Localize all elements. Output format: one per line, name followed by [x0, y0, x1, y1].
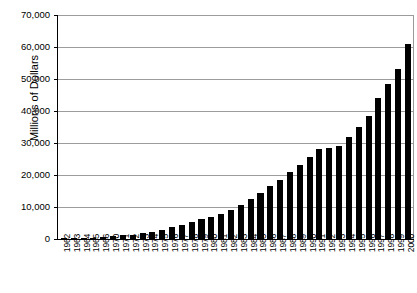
bar	[405, 44, 411, 239]
x-label-slot: 1989	[294, 241, 304, 293]
x-label-slot: 1997	[373, 241, 383, 293]
bar-chart-figure: Millions of Dollars 70,00060,00050,00040…	[0, 0, 417, 293]
bar-slot	[393, 15, 403, 239]
x-label-slot: 1999	[392, 241, 402, 293]
bar-slot	[98, 15, 108, 239]
x-label-slot: 1972	[127, 241, 137, 293]
bar	[297, 165, 303, 239]
x-label-slot: 1974	[146, 241, 156, 293]
x-label-slot: 1975	[156, 241, 166, 293]
bar-slot	[354, 15, 364, 239]
bar	[336, 146, 342, 239]
x-label-slot: 1996	[363, 241, 373, 293]
x-axis-tick-labels: 1962196319641965196619701971197219731974…	[57, 241, 413, 293]
bar	[316, 149, 322, 239]
bar-slot	[206, 15, 216, 239]
x-label-slot: 1980	[205, 241, 215, 293]
x-label-slot: 1991	[314, 241, 324, 293]
y-axis-tick-labels: 70,00060,00050,00040,00030,00020,00010,0…	[0, 0, 54, 243]
x-label-slot: 1965	[87, 241, 97, 293]
bar-slot	[324, 15, 334, 239]
x-label-slot: 1992	[323, 241, 333, 293]
y-tick-label: 50,000	[21, 74, 50, 84]
bar	[267, 186, 273, 239]
bar	[395, 69, 401, 239]
bar-slot	[285, 15, 295, 239]
bar	[346, 137, 352, 239]
bars-series	[58, 15, 414, 239]
bar	[257, 193, 263, 239]
y-tick-label: 10,000	[21, 202, 50, 212]
bar	[375, 98, 381, 239]
bar	[385, 84, 391, 239]
x-label-slot: 1988	[284, 241, 294, 293]
x-label-slot: 1970	[107, 241, 117, 293]
bar-slot	[256, 15, 266, 239]
x-label-slot: 1990	[304, 241, 314, 293]
x-label-slot: 1983	[235, 241, 245, 293]
bar-slot	[177, 15, 187, 239]
bar-slot	[197, 15, 207, 239]
bar-slot	[344, 15, 354, 239]
y-tick-mark	[54, 239, 58, 240]
x-label-slot: 1985	[255, 241, 265, 293]
bar	[366, 116, 372, 239]
x-label-slot: 1987	[274, 241, 284, 293]
y-tick-label: 60,000	[21, 42, 50, 52]
x-label-slot: 1993	[333, 241, 343, 293]
bar-slot	[275, 15, 285, 239]
bar-slot	[128, 15, 138, 239]
bar	[307, 157, 313, 239]
bar-slot	[79, 15, 89, 239]
bar-slot	[334, 15, 344, 239]
bar-slot	[157, 15, 167, 239]
y-tick-label: 70,000	[21, 10, 50, 20]
x-label-slot: 2000	[402, 241, 412, 293]
bar-slot	[118, 15, 128, 239]
bar-slot	[108, 15, 118, 239]
bar-slot	[147, 15, 157, 239]
x-label-slot: 1963	[68, 241, 78, 293]
bar-slot	[138, 15, 148, 239]
x-label-slot: 1994	[343, 241, 353, 293]
x-label-slot: 1981	[215, 241, 225, 293]
x-label-slot: 1982	[225, 241, 235, 293]
bar	[326, 148, 332, 239]
bar-slot	[374, 15, 384, 239]
x-label-slot: 1984	[245, 241, 255, 293]
x-label-slot: 1973	[137, 241, 147, 293]
x-label-slot: 1976	[166, 241, 176, 293]
x-label-slot: 1962	[58, 241, 68, 293]
x-label-slot: 1964	[78, 241, 88, 293]
x-label-slot: 1966	[97, 241, 107, 293]
bar-slot	[403, 15, 413, 239]
bar	[356, 127, 362, 239]
bar-slot	[187, 15, 197, 239]
y-tick-label: 20,000	[21, 170, 50, 180]
bar-slot	[236, 15, 246, 239]
bar-slot	[246, 15, 256, 239]
bar-slot	[295, 15, 305, 239]
bar-slot	[383, 15, 393, 239]
y-tick-label: 30,000	[21, 138, 50, 148]
x-label-slot: 1979	[196, 241, 206, 293]
bar-slot	[88, 15, 98, 239]
x-label-slot: 1977	[176, 241, 186, 293]
x-label-slot: 1986	[264, 241, 274, 293]
x-label-slot: 1978	[186, 241, 196, 293]
plot-area	[57, 15, 414, 240]
y-tick-label: 40,000	[21, 106, 50, 116]
bar-slot	[216, 15, 226, 239]
x-label-slot: 1998	[382, 241, 392, 293]
bar	[277, 180, 283, 239]
bar-slot	[265, 15, 275, 239]
bar-slot	[167, 15, 177, 239]
bar	[287, 172, 293, 239]
x-label-slot: 1995	[353, 241, 363, 293]
bar-slot	[226, 15, 236, 239]
bar-slot	[59, 15, 69, 239]
x-tick-label: 2000	[407, 234, 416, 252]
x-label-slot: 1971	[117, 241, 127, 293]
y-tick-label: 0	[45, 234, 50, 244]
bar-slot	[364, 15, 374, 239]
